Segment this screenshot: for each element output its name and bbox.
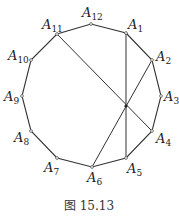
vertex-label-a2: A2 xyxy=(155,49,171,66)
vertex-label-a1: A1 xyxy=(127,17,143,34)
vertex-label-a5: A5 xyxy=(126,161,142,178)
vertex-label-a7: A7 xyxy=(43,160,59,177)
vertex-label-a6: A6 xyxy=(86,170,102,187)
vertex-a3 xyxy=(160,95,163,98)
vertex-a12 xyxy=(90,23,93,26)
vertex-label-a11: A11 xyxy=(41,17,63,34)
diagonal-a2-a6 xyxy=(92,60,152,167)
vertex-label-a10: A10 xyxy=(7,48,29,65)
dodecagon-outline xyxy=(22,24,161,167)
intersection-point xyxy=(124,104,127,107)
vertex-a6 xyxy=(91,166,94,169)
diagonal-a11-a4 xyxy=(57,34,152,131)
vertex-a5 xyxy=(125,157,128,160)
vertex-label-a4: A4 xyxy=(155,131,171,148)
vertex-a7 xyxy=(56,157,59,160)
vertex-label-a8: A8 xyxy=(13,130,29,147)
vertex-a8 xyxy=(30,130,33,133)
vertex-label-a12: A12 xyxy=(81,5,103,22)
figure-caption: 图 15.13 xyxy=(64,199,114,213)
vertex-a10 xyxy=(30,59,33,62)
vertex-a2 xyxy=(151,59,154,62)
vertex-label-a9: A9 xyxy=(3,89,19,106)
dodecagon-diagram: A1A2A3A4A5A6A7A8A9A10A11A12图 15.13 xyxy=(0,0,179,216)
vertex-a1 xyxy=(125,32,128,35)
vertex-a4 xyxy=(151,130,154,133)
vertex-label-a3: A3 xyxy=(163,89,179,106)
vertex-a9 xyxy=(21,95,24,98)
